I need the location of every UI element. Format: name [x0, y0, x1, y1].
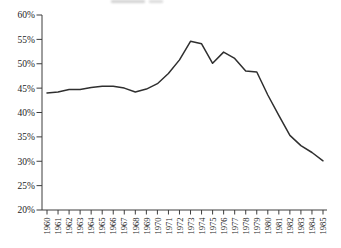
- x-tick-label: 1979: [252, 218, 262, 235]
- y-tick-label: 30%: [18, 157, 36, 167]
- x-tick-label: 1960: [42, 218, 52, 235]
- x-tick-label: 1964: [86, 217, 96, 235]
- x-tick-label: 1969: [142, 218, 152, 235]
- cropped-title-artifact: [111, 0, 145, 3]
- x-tick-label: 1962: [64, 218, 74, 235]
- x-tick-label: 1974: [197, 217, 207, 235]
- x-tick-label: 1982: [285, 218, 295, 235]
- y-tick-label: 50%: [18, 59, 36, 69]
- y-tick-label: 45%: [18, 84, 36, 94]
- x-tick-label: 1970: [153, 218, 163, 235]
- x-tick-label: 1973: [186, 218, 196, 235]
- x-tick-label: 1965: [97, 218, 107, 235]
- y-tick-label: 40%: [18, 108, 36, 118]
- x-tick-label: 1985: [318, 218, 328, 235]
- x-tick-label: 1975: [208, 218, 218, 235]
- x-tick-label: 1963: [75, 218, 85, 235]
- x-tick-label: 1980: [263, 218, 273, 235]
- y-tick-label: 25%: [18, 181, 36, 191]
- x-tick-label: 1981: [274, 218, 284, 235]
- x-tick-label: 1971: [164, 218, 174, 235]
- x-tick-label: 1961: [53, 218, 63, 235]
- x-tick-label: 1968: [131, 218, 141, 235]
- x-tick-label: 1984: [307, 217, 317, 235]
- x-tick-label: 1967: [119, 218, 129, 235]
- chart-canvas: 60%55%50%45%40%35%30%25%20%1960196119621…: [0, 0, 341, 248]
- data-line-series: [47, 41, 323, 161]
- axes: [42, 15, 327, 210]
- x-tick-label: 1976: [219, 218, 229, 235]
- x-tick-label: 1966: [108, 218, 118, 235]
- y-tick-label: 35%: [18, 132, 36, 142]
- cropped-title-artifact: [149, 0, 163, 3]
- y-tick-label: 55%: [18, 35, 36, 45]
- y-tick-label: 20%: [18, 205, 36, 215]
- line-chart: 60%55%50%45%40%35%30%25%20%1960196119621…: [0, 0, 341, 248]
- x-tick-label: 1972: [175, 218, 185, 235]
- x-tick-label: 1977: [230, 218, 240, 235]
- y-tick-label: 60%: [18, 10, 36, 20]
- x-tick-label: 1983: [296, 218, 306, 235]
- x-tick-label: 1978: [241, 218, 251, 235]
